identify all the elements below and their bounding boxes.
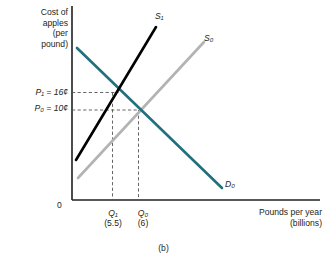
y-axis-title: Cost ofapples(perpound) xyxy=(6,7,68,49)
y-axis-title-line-3: (per xyxy=(53,28,68,38)
x-axis-title: Pounds per year(billions) xyxy=(210,207,322,228)
quantity-value-q0: (6) xyxy=(128,218,158,228)
supply-demand-figure: Cost ofapples(perpound) P₁ = 16¢ P₀ = 10… xyxy=(0,0,327,262)
figure-caption: (b) xyxy=(0,243,327,253)
curve-label-d0: D₀ xyxy=(225,179,235,189)
x-axis-title-line-2: (billions) xyxy=(290,218,322,228)
curve-label-s1: S₁ xyxy=(155,11,163,21)
quantity-label-q0: Q₀ xyxy=(128,208,158,218)
quantity-value-q1: (5.5) xyxy=(98,218,128,228)
y-axis-title-line-4: pound) xyxy=(41,39,68,49)
y-axis-title-line-1: Cost of xyxy=(41,7,68,17)
demand-curve-d0 xyxy=(77,48,222,188)
price-label-p0: P₀ = 10¢ xyxy=(8,103,68,113)
price-label-p1: P₁ = 16¢ xyxy=(8,87,68,97)
supply-curve-s1 xyxy=(76,27,156,160)
curve-label-s0: S₀ xyxy=(204,33,213,43)
quantity-label-q1: Q₁ xyxy=(98,208,128,218)
x-axis-title-line-1: Pounds per year xyxy=(259,207,322,217)
origin-label: 0 xyxy=(57,200,62,210)
y-axis-title-line-2: apples xyxy=(43,18,68,28)
